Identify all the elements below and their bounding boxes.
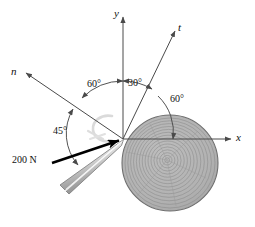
axis-label-x: x — [236, 132, 241, 143]
figure-canvas — [0, 0, 255, 227]
statics-figure: y x t n 60° 30° 60° 45° 200 N — [0, 0, 255, 227]
splitting-wedge — [60, 140, 124, 195]
axis-label-n: n — [11, 66, 17, 77]
force-label: 200 N — [12, 155, 37, 165]
angle-label-y-to-t: 30° — [128, 78, 142, 88]
axis-label-y: y — [114, 8, 119, 19]
angle-label-force-to-n: 45° — [53, 126, 67, 136]
angle-label-n-to-y: 60° — [87, 79, 101, 89]
angle-label-t-to-x: 60° — [170, 94, 184, 104]
axis-label-t: t — [178, 22, 181, 33]
log-cross-section — [122, 115, 218, 211]
